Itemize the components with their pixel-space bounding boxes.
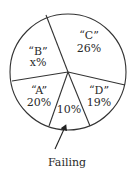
failing-arrow (55, 127, 65, 149)
slice-a-value: 20% (27, 96, 51, 109)
slice-c-value: 26% (77, 42, 101, 55)
divider-failing-a (49, 72, 68, 126)
slice-b-value: x% (30, 56, 47, 69)
divider-b-c (46, 15, 68, 72)
pie-chart: “B” x% “C” 26% “A” 20% “D” 19% 10% Faili… (0, 0, 138, 173)
divider-a-b (12, 72, 68, 81)
slice-failing-value: 10% (57, 103, 81, 116)
slice-c-name: “C” (79, 29, 99, 42)
slice-d-value: 19% (87, 96, 111, 109)
failing-annotation: Failing (48, 156, 86, 169)
